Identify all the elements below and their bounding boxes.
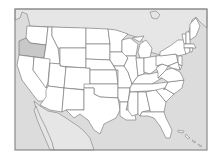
state-KS[interactable]: [90, 70, 118, 84]
state-ND[interactable]: [86, 28, 110, 44]
state-MT[interactable]: [52, 27, 86, 48]
state-WY[interactable]: [60, 48, 86, 68]
state-UT[interactable]: [48, 63, 66, 88]
state-NH[interactable]: [186, 32, 190, 44]
state-NM[interactable]: [62, 88, 84, 112]
us-map: [0, 0, 220, 160]
state-MS[interactable]: [128, 92, 138, 116]
state-SD[interactable]: [86, 44, 110, 60]
state-MA[interactable]: [184, 44, 196, 48]
